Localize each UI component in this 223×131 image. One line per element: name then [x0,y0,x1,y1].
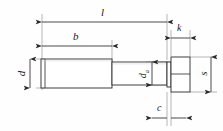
dimension-label-da: da [138,70,150,78]
technical-drawing-canvas: l b k d da s c [0,0,223,131]
dimension-label-k-text: k [177,22,181,33]
dimension-label-da-subscript: a [143,70,150,73]
dimension-label-d-text: d [15,71,27,77]
dimension-label-b: b [73,31,79,42]
bolt-drawing-svg [0,0,223,131]
dimension-label-s: s [198,71,209,75]
bolt-outline [41,57,190,92]
dimension-label-b-text: b [73,30,79,42]
washer-face [167,62,171,87]
dimension-label-s-text: s [197,71,209,75]
thread-section [41,59,112,88]
dimension-label-c: c [157,103,161,113]
dimension-label-k: k [177,23,181,33]
dimension-label-l: l [101,7,104,18]
dimension-label-da-text: d [137,73,148,78]
dimension-label-l-text: l [101,6,104,18]
dimension-label-c-text: c [157,102,161,113]
head-section [171,57,190,92]
dimension-label-d: d [16,71,27,77]
